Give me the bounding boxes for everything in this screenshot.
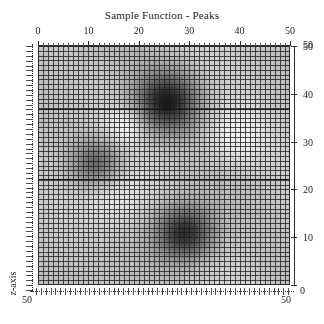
bottom-axis-minor-tick (274, 288, 275, 295)
y-axis-tick (291, 94, 297, 95)
x-axis-minor-tick (114, 43, 115, 46)
bottom-axis-minor-tick (65, 288, 66, 295)
x-axis-minor-tick (209, 43, 210, 46)
z-axis-minor-tick (26, 61, 33, 62)
z-axis-minor-tick (26, 51, 33, 52)
z-axis-minor-tick (26, 163, 33, 164)
x-axis-minor-tick (265, 43, 266, 46)
x-axis-minor-tick (78, 43, 79, 46)
z-axis-minor-tick (26, 144, 33, 145)
x-axis-minor-tick (93, 43, 94, 46)
bottom-axis-minor-tick (94, 288, 95, 295)
z-axis-minor-tick (26, 236, 33, 237)
y-axis-top-label: 50 (303, 39, 313, 50)
bottom-axis-minor-tick (191, 288, 192, 295)
bottom-axis-minor-tick (220, 288, 221, 295)
bottom-axis-minor-tick (244, 288, 245, 295)
x-axis-tick (240, 41, 241, 46)
z-axis-minor-tick (26, 231, 33, 232)
z-axis-minor-tick (26, 173, 33, 174)
z-axis-minor-tick (26, 241, 33, 242)
bottom-axis-minor-tick (240, 288, 241, 295)
x-axis-minor-tick (104, 43, 105, 46)
x-axis-tick-label: 50 (285, 25, 295, 36)
z-axis-minor-tick (26, 114, 33, 115)
bottom-axis-minor-tick (177, 288, 178, 295)
bottom-axis-minor-tick (206, 288, 207, 295)
x-axis-minor-tick (250, 43, 251, 46)
bottom-axis-minor-tick (162, 288, 163, 295)
x-axis-minor-tick (184, 43, 185, 46)
x-axis-minor-tick (260, 43, 261, 46)
bottom-axis-minor-tick (249, 288, 250, 295)
bottom-axis-minor-tick (89, 288, 90, 295)
z-axis-minor-tick (26, 285, 33, 286)
bottom-axis-minor-tick (80, 288, 81, 295)
z-axis-label: z-axis (7, 256, 18, 312)
bottom-axis-minor-tick (196, 288, 197, 295)
chart-title: Sample Function - Peaks (0, 9, 324, 21)
x-axis-minor-tick (144, 43, 145, 46)
z-axis-minor-tick (26, 100, 33, 101)
x-axis-minor-tick (119, 43, 120, 46)
bottom-axis-minor-tick (181, 288, 182, 295)
plot-surface-area (38, 46, 290, 285)
x-axis-tick (38, 41, 39, 46)
x-axis-minor-tick (58, 43, 59, 46)
bottom-axis-minor-tick (167, 288, 168, 295)
x-axis-minor-tick (48, 43, 49, 46)
z-axis-minor-tick (26, 178, 33, 179)
z-axis-minor-tick (26, 261, 33, 262)
z-axis-minor-tick (26, 129, 33, 130)
bottom-axis-minor-tick (85, 288, 86, 295)
bottom-axis-minor-tick (114, 288, 115, 295)
z-axis-minor-tick (26, 56, 33, 57)
bottom-axis-right-label: 50 (281, 294, 291, 305)
bottom-axis-minor-tick (55, 288, 56, 295)
x-axis-tick (189, 41, 190, 46)
bottom-axis-minor-tick (70, 288, 71, 295)
x-axis-tick-label: 10 (83, 25, 93, 36)
z-axis-minor-tick (26, 85, 33, 86)
y-axis-tick (291, 46, 297, 47)
x-axis-minor-tick (124, 43, 125, 46)
bottom-axis-minor-tick (225, 288, 226, 295)
x-axis-minor-tick (43, 43, 44, 46)
x-axis-minor-tick (179, 43, 180, 46)
x-axis-minor-tick (214, 43, 215, 46)
x-axis-minor-tick (159, 43, 160, 46)
y-axis-tick (291, 189, 297, 190)
x-axis-tick (139, 41, 140, 46)
bottom-axis-minor-tick (51, 288, 52, 295)
bottom-axis-minor-tick (172, 288, 173, 295)
y-axis-right: 1020304050 (294, 46, 300, 285)
bottom-axis-minor-tick (235, 288, 236, 295)
z-axis-minor-tick (26, 207, 33, 208)
z-axis-minor-tick (26, 109, 33, 110)
x-axis-minor-tick (285, 43, 286, 46)
z-axis-minor-tick (26, 227, 33, 228)
x-axis-minor-tick (219, 43, 220, 46)
bottom-axis-minor-tick (118, 288, 119, 295)
x-axis-minor-tick (245, 43, 246, 46)
z-axis-minor-tick (26, 153, 33, 154)
z-axis-minor-tick (26, 183, 33, 184)
x-axis-minor-tick (199, 43, 200, 46)
z-axis-minor-tick (26, 80, 33, 81)
z-axis-minor-tick (26, 70, 33, 71)
z-axis-minor-tick (26, 119, 33, 120)
y-axis-line (294, 46, 295, 285)
bottom-axis-minor-tick (254, 288, 255, 295)
z-axis-minor-tick (26, 280, 33, 281)
bottom-axis-minor-tick (128, 288, 129, 295)
z-axis-minor-tick (26, 158, 33, 159)
bottom-axis-minor-tick (99, 288, 100, 295)
x-axis-minor-tick (73, 43, 74, 46)
y-axis-tick (291, 142, 297, 143)
z-axis-minor-tick (26, 271, 33, 272)
z-axis-minor-tick (26, 222, 33, 223)
bottom-axis-minor-tick (269, 288, 270, 295)
bottom-axis-minor-tick (211, 288, 212, 295)
z-axis-minor-tick (26, 149, 33, 150)
z-axis-minor-tick (26, 192, 33, 193)
